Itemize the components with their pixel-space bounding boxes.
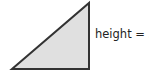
right-triangle	[12, 3, 89, 69]
height-label: height = 5	[95, 27, 149, 41]
triangle-diagram: height = 5	[0, 0, 149, 72]
